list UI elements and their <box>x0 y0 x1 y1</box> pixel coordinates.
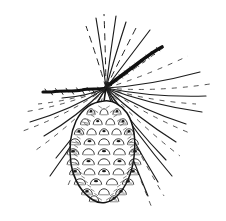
cone-scale-umbo <box>126 180 130 182</box>
cone-scale-umbo <box>73 170 77 172</box>
cone-scale-umbo <box>71 150 75 152</box>
cone-scale-umbo <box>102 170 106 172</box>
cone-scale-umbo <box>121 120 124 122</box>
cone-scale-umbo <box>112 197 115 199</box>
cone-scale-umbo <box>117 160 121 162</box>
cone-scale-umbo <box>96 120 99 122</box>
cone-scale-umbo <box>102 130 105 132</box>
cone-scale-umbo <box>119 190 123 192</box>
pine-cone-illustration <box>0 0 226 221</box>
cone-scale-umbo <box>133 150 137 152</box>
cone-scale-umbo <box>77 130 80 132</box>
cone-scale-umbo <box>127 130 130 132</box>
cone-scale-umbo <box>102 150 106 152</box>
cone-scale-umbo <box>86 160 90 162</box>
cone-scale-umbo <box>117 140 121 142</box>
cone-scale-umbo <box>94 180 98 182</box>
illustration-root <box>0 0 226 221</box>
cone-scale-umbo <box>116 110 119 112</box>
cone-scale-umbo <box>88 140 92 142</box>
cone-scale-umbo <box>85 190 89 192</box>
cone-scale-umbo <box>90 110 93 112</box>
cone-scale-umbo <box>131 170 135 172</box>
